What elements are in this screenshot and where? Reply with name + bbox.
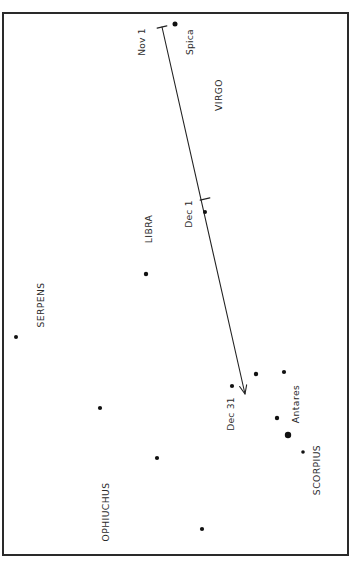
star-point — [282, 370, 286, 374]
star-chart-canvas: VIRGOLIBRASERPENSAntaresSCORPIUSOPHIUCHU… — [0, 0, 354, 562]
planet-path-group — [157, 26, 247, 394]
label-libra: LIBRA — [143, 214, 154, 243]
chart-border-frame — [3, 13, 348, 555]
chart-labels-group: VIRGOLIBRASERPENSAntaresSCORPIUSOPHIUCHU… — [35, 28, 322, 541]
label-star-spica: Spica — [184, 29, 195, 55]
label-antares: Antares — [290, 385, 301, 424]
star-spica — [173, 22, 178, 27]
label-date-nov-1: Nov 1 — [136, 28, 147, 56]
star-point — [254, 372, 258, 376]
star-point — [200, 527, 204, 531]
label-virgo: VIRGO — [213, 79, 224, 111]
label-scorpius: SCORPIUS — [311, 445, 322, 495]
star-point — [155, 456, 159, 460]
label-serpens: SERPENS — [35, 282, 46, 327]
star-point — [301, 450, 305, 454]
star-point — [203, 210, 207, 214]
star-point — [144, 272, 148, 276]
star-point — [275, 416, 279, 420]
star-chart-figure: VIRGOLIBRASERPENSAntaresSCORPIUSOPHIUCHU… — [0, 0, 354, 562]
star-points-group — [14, 22, 305, 532]
star-point — [98, 406, 102, 410]
path-date-tick — [200, 198, 210, 200]
star-point — [14, 335, 18, 339]
label-date-dec-1: Dec 1 — [183, 200, 194, 228]
star-point — [230, 384, 234, 388]
label-date-dec-31: Dec 31 — [225, 397, 236, 431]
label-ophiuchus: OPHIUCHUS — [100, 482, 111, 541]
planet-path-line — [162, 27, 245, 394]
star-antares — [285, 432, 291, 438]
